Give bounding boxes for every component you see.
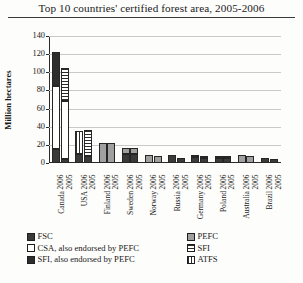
y-axis-tick-label: 140 — [32, 32, 45, 40]
y-axis-title: Million hectares — [3, 70, 13, 129]
chart-title-wrap: Top 10 countries' certified forest area,… — [0, 2, 303, 14]
legend-swatch-icon — [27, 233, 35, 241]
x-axis-country-label: Norway — [149, 191, 158, 215]
x-axis-year-label: 2005 — [251, 175, 260, 190]
bar-segment — [238, 155, 246, 163]
chart-container: Top 10 countries' certified forest area,… — [0, 0, 303, 283]
legend-label: CSA, also endorsed by PEFC — [38, 244, 139, 253]
x-axis-year-label: 2005 — [158, 175, 167, 190]
legend-label: ATFS — [198, 255, 218, 264]
x-axis-year-label: 2005 — [181, 175, 190, 190]
bar-segment — [168, 155, 176, 163]
x-axis-year-label: 2005 — [135, 175, 144, 190]
legend-label: SFI — [198, 244, 210, 253]
bar-segment — [191, 155, 199, 157]
bar-segment — [215, 158, 223, 163]
bar-segment — [177, 158, 185, 163]
bar-group — [49, 36, 72, 163]
legend-column-right: PEFCSFIATFS — [187, 231, 218, 266]
bar-segment — [84, 130, 92, 155]
bar-segment — [61, 68, 69, 102]
legend-swatch-icon — [27, 256, 35, 264]
y-axis-title-holder: Million hectares — [2, 36, 14, 163]
y-axis-tick — [46, 163, 49, 164]
bar-segment — [154, 156, 162, 163]
bar-segment — [270, 159, 278, 163]
legend-label: FSC — [38, 232, 53, 241]
x-axis-country-label: Brazil — [265, 191, 274, 210]
x-axis-country-label: Australia — [242, 191, 251, 219]
bar-group — [119, 36, 142, 163]
bar-segment — [215, 156, 223, 158]
bar-segment — [122, 148, 130, 154]
bar-segment — [75, 154, 83, 163]
legend-item: SFI — [187, 243, 218, 254]
y-axis-tick-label: 120 — [32, 50, 45, 58]
x-axis-country-label: USA — [79, 191, 88, 206]
legend-item: FSC — [27, 231, 139, 242]
x-axis-country-label: Sweden — [126, 191, 135, 215]
bar-segment — [261, 158, 269, 163]
bar-group — [211, 36, 234, 163]
legend-column-left: FSCCSA, also endorsed by PEFCSFI, also e… — [27, 231, 139, 266]
legend-swatch-icon — [187, 256, 195, 264]
bar-group — [95, 36, 118, 163]
x-axis-year-label: 2005 — [227, 175, 236, 190]
bar-segment — [145, 155, 153, 163]
y-axis-tick-label: 80 — [37, 86, 45, 94]
x-axis-year-label: 2005 — [204, 175, 213, 190]
y-axis-tick-label: 60 — [37, 104, 45, 112]
bar-segment — [200, 158, 208, 163]
y-axis-tick-label: 100 — [32, 68, 45, 76]
bar-segment — [99, 143, 107, 163]
x-axis-country-label: Canada — [56, 191, 65, 214]
legend-item: SFI, also endorsed by PEFC — [27, 254, 139, 265]
bar-segment — [61, 159, 69, 163]
bar-group — [72, 36, 95, 163]
x-axis-year-label: 2005 — [65, 175, 74, 190]
x-axis-year-label: 2005 — [111, 175, 120, 190]
bar-segment — [52, 52, 60, 86]
bar-group — [188, 36, 211, 163]
bar-segment — [130, 154, 138, 163]
title-divider — [8, 17, 295, 18]
bar-group — [258, 36, 281, 163]
x-axis-year-label: 2005 — [88, 175, 97, 190]
bar-segment — [107, 143, 115, 163]
bar-group — [142, 36, 165, 163]
bar-segment — [61, 101, 69, 159]
x-axis-country-label: Russia — [172, 191, 181, 211]
bar-segment — [200, 156, 208, 158]
bar-segment — [84, 156, 92, 163]
bar-segment — [122, 154, 130, 163]
bar-segment — [52, 86, 60, 149]
legend-item: PEFC — [187, 231, 218, 242]
x-axis-country-label: Finland — [103, 191, 112, 214]
bar-segment — [130, 148, 138, 154]
legend-swatch-icon — [187, 244, 195, 252]
x-axis-country-label: Poland — [219, 191, 228, 212]
bar-segment — [191, 157, 199, 163]
bar-segment — [75, 131, 83, 154]
legend-label: PEFC — [198, 232, 219, 241]
bar-segment — [223, 156, 231, 158]
bar-segment — [246, 156, 254, 163]
legend-item: ATFS — [187, 254, 218, 265]
bar-segment — [52, 149, 60, 164]
x-axis-labels: 20062005Canada20062005USA20062005Finland… — [49, 165, 281, 215]
legend-label: SFI, also endorsed by PEFC — [38, 255, 135, 264]
plot-area: 020406080100120140 — [49, 36, 281, 163]
legend-swatch-icon — [27, 244, 35, 252]
x-axis-year-label: 2005 — [274, 175, 283, 190]
bar-segment — [223, 158, 231, 163]
y-axis-tick-label: 40 — [37, 123, 45, 131]
legend-swatch-icon — [187, 233, 195, 241]
bar-group — [235, 36, 258, 163]
bar-group — [165, 36, 188, 163]
chart-title: Top 10 countries' certified forest area,… — [0, 2, 303, 14]
bars-layer — [49, 36, 281, 163]
x-axis-country-label: Germany — [195, 191, 204, 219]
y-axis-tick-label: 0 — [41, 159, 45, 167]
legend-item: CSA, also endorsed by PEFC — [27, 243, 139, 254]
y-axis-tick-label: 20 — [37, 141, 45, 149]
